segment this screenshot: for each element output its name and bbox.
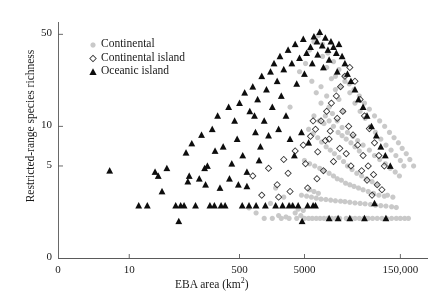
y-tick-label: 10	[22, 118, 52, 130]
y-tick-label: 0	[22, 250, 52, 262]
scatter-plot-figure: Restricted-range species richness EBA ar…	[0, 0, 440, 305]
x-tick-label: 10	[99, 263, 159, 275]
plot-canvas	[0, 0, 440, 305]
x-tick-label: 5000	[274, 263, 334, 275]
x-axis-title: EBA area (km2)	[175, 276, 249, 290]
legend-item-diamond-open: Continental island	[101, 51, 185, 63]
x-tick-label: 150,000	[370, 263, 430, 275]
x-tick-label: 0	[28, 263, 88, 275]
x-tick-label: 500	[210, 263, 270, 275]
legend-item-triangle-filled: Oceanic island	[101, 64, 169, 76]
y-tick-label: 5	[22, 158, 52, 170]
y-tick-label: 50	[22, 26, 52, 38]
x-axis-title-text: EBA area (km2)	[175, 278, 249, 290]
legend-item-circle-filled: Continental	[101, 37, 155, 49]
